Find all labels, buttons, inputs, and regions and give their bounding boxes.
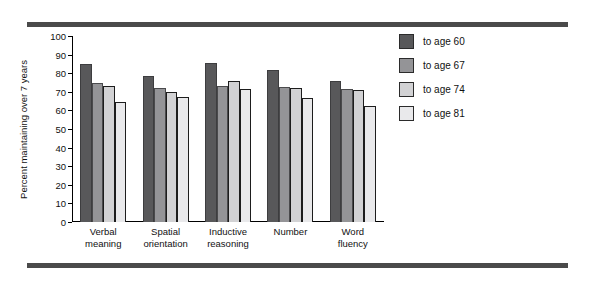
legend-item-label: to age 67: [423, 60, 465, 71]
bar[interactable]: [267, 70, 279, 222]
y-axis-tick-label: 50: [42, 124, 66, 135]
bar[interactable]: [205, 63, 217, 222]
bar[interactable]: [115, 102, 127, 222]
y-axis-tick-label: 20: [42, 179, 66, 190]
bar[interactable]: [279, 87, 291, 222]
bar-group-bars: [80, 36, 126, 222]
y-axis-title-text: Percent maintaining over 7 years: [18, 60, 29, 199]
bar-group-bars: [330, 36, 376, 222]
legend-item-label: to age 81: [423, 108, 465, 119]
top-rule: [27, 22, 568, 27]
bar[interactable]: [80, 64, 92, 222]
legend-item[interactable]: to age 81: [399, 106, 465, 121]
x-axis-category-label-line: orientation: [134, 238, 196, 250]
y-axis-tick-label: 100: [42, 31, 66, 42]
x-axis-category-label-line: fluency: [322, 238, 384, 250]
bottom-rule: [27, 263, 568, 268]
bar-group: [134, 36, 196, 222]
bar[interactable]: [240, 89, 252, 222]
bar[interactable]: [341, 89, 353, 222]
y-axis-tick-label: 90: [42, 49, 66, 60]
y-axis-title: Percent maintaining over 7 years: [16, 36, 30, 222]
x-axis-category-label-line: meaning: [72, 238, 134, 250]
x-axis-category-label-line: Word: [322, 226, 384, 238]
bar-group: [197, 36, 259, 222]
bar-groups: [72, 36, 384, 222]
x-axis-category-labels: VerbalmeaningSpatialorientationInductive…: [72, 226, 384, 249]
bar-group-bars: [267, 36, 313, 222]
y-axis-tick-label: 60: [42, 105, 66, 116]
bar[interactable]: [364, 106, 376, 222]
legend-item[interactable]: to age 74: [399, 82, 465, 97]
bar[interactable]: [154, 88, 166, 222]
y-axis-tick-label: 80: [42, 68, 66, 79]
bar[interactable]: [103, 86, 115, 222]
legend: to age 60to age 67to age 74to age 81: [399, 34, 465, 121]
y-axis-tick-label: 70: [42, 86, 66, 97]
x-axis-category-label-line: Inductive: [197, 226, 259, 238]
bar-chart-figure: Percent maintaining over 7 years 0102030…: [0, 0, 599, 281]
x-axis-category-label-line: Spatial: [134, 226, 196, 238]
legend-item[interactable]: to age 67: [399, 58, 465, 73]
bar[interactable]: [302, 98, 314, 222]
bar[interactable]: [177, 97, 189, 222]
x-axis-category-label: Inductivereasoning: [197, 226, 259, 249]
bar-group: [72, 36, 134, 222]
x-axis-category-label-line: reasoning: [197, 238, 259, 250]
plot-area: 0102030405060708090100: [72, 36, 384, 222]
x-axis-category-label: Wordfluency: [322, 226, 384, 249]
y-axis-tick-label: 30: [42, 161, 66, 172]
y-axis-tick-label: 40: [42, 142, 66, 153]
x-axis-category-label-line: [259, 238, 321, 250]
y-axis-tick-label: 10: [42, 198, 66, 209]
bar-group-bars: [205, 36, 251, 222]
legend-swatch: [399, 106, 414, 121]
bar[interactable]: [330, 81, 342, 222]
y-axis-tick-label: 0: [42, 217, 66, 228]
bar[interactable]: [228, 81, 240, 222]
bar-group-bars: [143, 36, 189, 222]
legend-item-label: to age 74: [423, 84, 465, 95]
x-axis-category-label: Verbalmeaning: [72, 226, 134, 249]
bar[interactable]: [290, 88, 302, 222]
bar-group: [322, 36, 384, 222]
bar[interactable]: [353, 90, 365, 222]
bar[interactable]: [166, 92, 178, 222]
bar[interactable]: [92, 83, 104, 223]
bar-group: [259, 36, 321, 222]
bar[interactable]: [143, 76, 155, 222]
legend-swatch: [399, 58, 414, 73]
legend-swatch: [399, 34, 414, 49]
x-axis-category-label: Spatialorientation: [134, 226, 196, 249]
y-axis-tick: [68, 222, 72, 223]
legend-item[interactable]: to age 60: [399, 34, 465, 49]
x-axis-category-label-line: Verbal: [72, 226, 134, 238]
legend-swatch: [399, 82, 414, 97]
x-axis-category-label: Number: [259, 226, 321, 249]
bar[interactable]: [217, 86, 229, 222]
legend-item-label: to age 60: [423, 36, 465, 47]
x-axis-category-label-line: Number: [259, 226, 321, 238]
